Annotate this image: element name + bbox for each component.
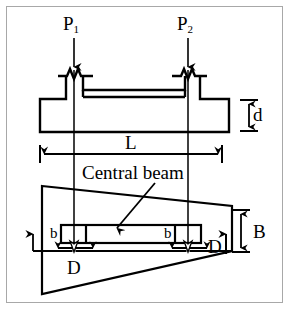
knife-edge-support-left: [58, 69, 93, 79]
central-beam-callout-label: Central beam: [82, 163, 184, 182]
width-dimension-arrow: [232, 210, 250, 252]
spacing-label-right-D: D: [208, 237, 222, 256]
beam-width-label-right: b: [164, 226, 172, 241]
load-label-left: P1: [63, 14, 79, 33]
knife-edge-support-right: [172, 69, 207, 79]
beam-width-label-left: b: [50, 226, 58, 241]
span-label-L: L: [125, 133, 137, 152]
central-beam-leader-arrow: [117, 183, 155, 228]
load-label-right: P2: [177, 14, 193, 33]
loading-fixture-outline: [40, 76, 229, 132]
diagram-canvas: [0, 0, 291, 311]
central-beam-rectangle: [61, 225, 201, 243]
thickness-label-d: d: [253, 105, 263, 124]
figure-root: P1 P2 d L Central beam b b D D B: [0, 0, 291, 311]
spacing-label-left-D: D: [67, 258, 81, 277]
width-label-B: B: [253, 222, 266, 241]
